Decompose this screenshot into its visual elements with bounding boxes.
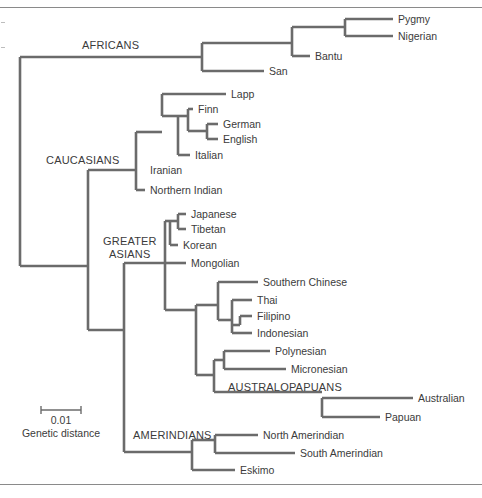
tip-label-iranian: Iranian bbox=[150, 164, 182, 176]
tip-label-papuan: Papuan bbox=[385, 411, 421, 423]
scale-bar: 0.01Genetic distance bbox=[22, 406, 100, 439]
left-edge-mark-lower bbox=[1, 47, 5, 48]
top-divider-rule bbox=[0, 7, 482, 8]
tip-label-south-amerindian: South Amerindian bbox=[300, 447, 383, 459]
tip-label-north-amerindian: North Amerindian bbox=[263, 429, 344, 441]
tip-label-nigerian: Nigerian bbox=[398, 30, 437, 42]
tip-label-tibetan: Tibetan bbox=[191, 223, 226, 235]
scale-bar-value-label: 0.01 bbox=[51, 414, 72, 426]
tip-label-english: English bbox=[223, 133, 258, 145]
bottom-divider-rule bbox=[0, 484, 482, 485]
clade-label-greater-asians-line1: GREATER bbox=[103, 235, 157, 247]
tree-diagram: PygmyNigerianBantuSanLappFinnGermanEngli… bbox=[0, 0, 482, 498]
tip-label-lapp: Lapp bbox=[231, 88, 255, 100]
left-edge-mark-upper bbox=[1, 22, 5, 23]
tip-label-filipino: Filipino bbox=[257, 310, 290, 322]
tip-label-korean: Korean bbox=[183, 239, 217, 251]
tip-label-german: German bbox=[223, 118, 261, 130]
scale-bar-caption: Genetic distance bbox=[22, 427, 100, 439]
tip-label-san: San bbox=[269, 65, 288, 77]
tip-label-finn: Finn bbox=[198, 103, 219, 115]
tip-label-northern-indian: Northern Indian bbox=[150, 184, 223, 196]
clade-label-greater-asians-line2: ASIANS bbox=[109, 248, 151, 260]
tip-label-thai: Thai bbox=[257, 294, 277, 306]
clade-label-africans: AFRICANS bbox=[82, 39, 139, 51]
tip-label-polynesian: Polynesian bbox=[275, 345, 327, 357]
clade-label-caucasians: CAUCASIANS bbox=[46, 154, 120, 166]
tip-label-bantu: Bantu bbox=[315, 50, 343, 62]
tip-label-micronesian: Micronesian bbox=[291, 363, 348, 375]
tip-label-indonesian: Indonesian bbox=[257, 327, 309, 339]
tip-label-southern-chinese: Southern Chinese bbox=[263, 276, 347, 288]
clade-label-amerindians: AMERINDIANS bbox=[133, 429, 212, 441]
clade-label-australopapuans: AUSTRALOPAPUANS bbox=[228, 381, 342, 393]
tip-label-pygmy: Pygmy bbox=[398, 13, 431, 25]
tip-label-group: PygmyNigerianBantuSanLappFinnGermanEngli… bbox=[150, 13, 465, 476]
tip-label-japanese: Japanese bbox=[191, 208, 237, 220]
tip-label-italian: Italian bbox=[195, 149, 223, 161]
tip-label-eskimo: Eskimo bbox=[240, 464, 275, 476]
tip-label-australian: Australian bbox=[418, 392, 465, 404]
tip-label-mongolian: Mongolian bbox=[191, 257, 240, 269]
phylogenetic-tree-figure: PygmyNigerianBantuSanLappFinnGermanEngli… bbox=[0, 0, 482, 498]
